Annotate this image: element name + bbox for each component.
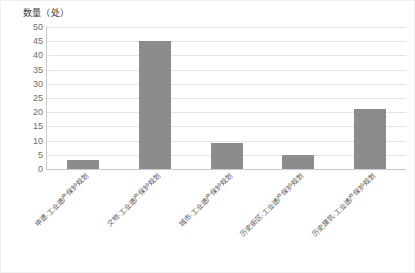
bar [282,155,314,169]
y-tick-label: 40 [3,51,43,60]
bar-chart: 数量（处） 50454035302520151050 申遗·工业遗产保护规划文物… [0,0,415,273]
gridline [47,98,406,99]
gridline [47,55,406,56]
y-tick-label: 35 [3,65,43,74]
y-axis-tick-labels: 50454035302520151050 [1,27,43,169]
gridline [47,126,406,127]
gridline [47,141,406,142]
y-tick-label: 5 [3,150,43,159]
y-tick-label: 25 [3,94,43,103]
x-tick-label: 历史建筑·工业遗产保护规划 [311,172,377,238]
x-tick-label: 城市·工业遗产保护规划 [177,172,234,229]
bar [354,109,386,169]
bar [67,160,99,169]
y-tick-label: 0 [3,165,43,174]
gridline [47,70,406,71]
gridline [47,41,406,42]
gridline [47,169,406,170]
x-axis-tick-labels: 申遗·工业遗产保护规划文物·工业遗产保护规划城市·工业遗产保护规划历史街区·工业… [47,171,406,271]
y-tick-label: 50 [3,23,43,32]
x-tick-label: 申遗·工业遗产保护规划 [34,172,91,229]
gridline [47,112,406,113]
y-tick-label: 15 [3,122,43,131]
bar [139,41,171,169]
chart-title: 数量（处） [23,6,69,19]
y-tick-label: 45 [3,37,43,46]
gridline [47,84,406,85]
bar [211,143,243,169]
y-tick-label: 10 [3,136,43,145]
gridline [47,27,406,28]
x-tick-label: 历史街区·工业遗产保护规划 [239,172,305,238]
plot-area [47,27,406,169]
y-tick-label: 30 [3,79,43,88]
y-tick-label: 20 [3,108,43,117]
x-tick-label: 文物·工业遗产保护规划 [106,172,163,229]
